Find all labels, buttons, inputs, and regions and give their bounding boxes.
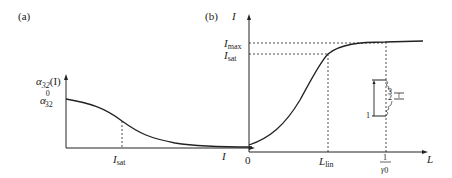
panel-a-curve <box>66 99 252 147</box>
svg-text:1: 1 <box>383 153 387 162</box>
panel-a-y-arrow-icon <box>64 74 68 80</box>
energy-level-inset: 1 2 3 <box>366 80 404 120</box>
svg-text:γ0: γ0 <box>381 165 388 175</box>
panel-b-y-arrow-icon <box>247 14 251 20</box>
svg-text:3: 3 <box>388 87 392 96</box>
panel-b-llin-label: Llin <box>318 155 334 169</box>
panel-b-inverse-gamma-label: 1 γ0 <box>380 153 391 175</box>
panel-b-label: (b) <box>205 10 218 23</box>
panel-a-isat-label: Isat <box>112 153 126 167</box>
svg-text:1: 1 <box>366 111 370 120</box>
panel-a-y-intercept-label: α032 <box>40 89 53 109</box>
panel-a-label: (a) <box>18 10 31 23</box>
panel-b-x-axis-label: L <box>426 153 433 165</box>
panel-a-y-axis-label: α32(I) <box>36 75 61 90</box>
panel-b-y-axis-label: I <box>231 10 237 22</box>
figure-canvas: (a) α32(I) α032 Isat I (b) I L 0 Imax Is… <box>0 0 452 178</box>
panel-b-isat-label: Isat <box>223 49 237 63</box>
panel-a-x-axis-label: I <box>221 150 227 162</box>
panel-b-origin-label: 0 <box>245 154 251 166</box>
